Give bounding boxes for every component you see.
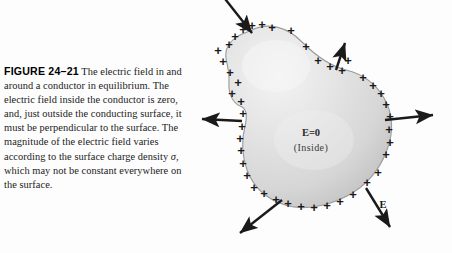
arrow-left-outward (202, 119, 242, 121)
surface-charge: + (310, 200, 318, 215)
figure-page: FIGURE 24–21 The electric field in and a… (0, 0, 452, 253)
surface-charge: + (287, 23, 295, 38)
surface-charge: + (237, 94, 245, 109)
surface-charge: + (284, 196, 292, 211)
surface-charge: + (369, 78, 377, 93)
surface-charge: + (260, 186, 268, 201)
surface-charge: + (326, 59, 334, 74)
figure-number-label: FIGURE 24–21 (4, 65, 79, 77)
surface-charge: + (214, 43, 222, 58)
surface-charge: + (258, 17, 266, 32)
surface-charge: + (302, 39, 310, 54)
surface-charge: + (268, 20, 276, 35)
field-vector-label: E (379, 199, 386, 210)
surface-charge: + (226, 65, 234, 80)
surface-charge: + (297, 199, 305, 214)
surface-charge: + (344, 53, 352, 68)
surface-charge: + (231, 29, 239, 44)
conductor-diagram: E=0 (Inside) +++++++++++++++++++++++++++… (190, 0, 452, 253)
surface-charge: + (359, 70, 367, 85)
surface-charge: + (314, 53, 322, 68)
surface-charge: + (349, 187, 357, 202)
surface-charge: + (374, 165, 382, 180)
inside-field-label: E=0 (302, 127, 320, 138)
surface-charge: + (228, 86, 236, 101)
figure-caption: FIGURE 24–21 The electric field in and a… (4, 64, 190, 192)
figure-caption-body: The electric field in and around a condu… (4, 66, 182, 162)
surface-charge: + (239, 156, 247, 171)
surface-charge: + (323, 198, 331, 213)
inside-sublabel: (Inside) (294, 142, 328, 154)
arrow-bottom-left-outward (240, 200, 282, 233)
surface-charge: + (336, 194, 344, 209)
arrow-top-left-inward (218, 0, 252, 33)
surface-charge: + (250, 180, 258, 195)
surface-charge: + (382, 147, 390, 162)
